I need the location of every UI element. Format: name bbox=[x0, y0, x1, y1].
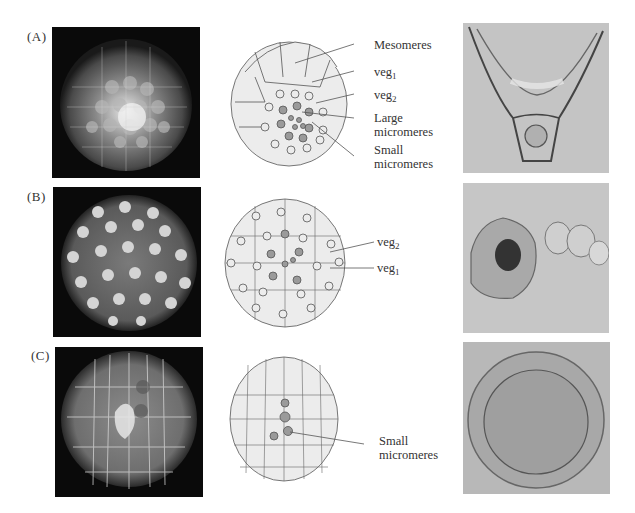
larva-image-a bbox=[463, 23, 609, 173]
blastomere-diagram-c bbox=[228, 355, 340, 485]
larva-image-b bbox=[463, 183, 609, 333]
panel-label-c: (C) bbox=[31, 348, 50, 364]
label-mesomeres: Mesomeres bbox=[374, 38, 432, 52]
label-veg2-a: veg2 bbox=[374, 88, 397, 102]
label-veg1-a: veg1 bbox=[374, 65, 397, 79]
label-veg2-b: veg2 bbox=[377, 235, 400, 249]
fluorescence-image-b bbox=[53, 187, 201, 337]
leader-lines-c bbox=[290, 430, 365, 450]
label-small-micromeres-a: Smallmicromeres bbox=[374, 143, 433, 171]
leader-lines-b bbox=[330, 240, 375, 280]
label-large-micromeres: Largemicromeres bbox=[374, 111, 433, 139]
label-veg1-b: veg1 bbox=[377, 261, 400, 275]
leader-lines-a bbox=[290, 40, 365, 170]
fluorescence-image-a bbox=[52, 27, 200, 178]
panel-label-a: (A) bbox=[27, 29, 47, 45]
label-small-micromeres-c: Smallmicromeres bbox=[379, 434, 438, 462]
panel-label-b: (B) bbox=[27, 189, 46, 205]
larva-image-c bbox=[463, 342, 610, 494]
fluorescence-image-c bbox=[55, 347, 203, 497]
